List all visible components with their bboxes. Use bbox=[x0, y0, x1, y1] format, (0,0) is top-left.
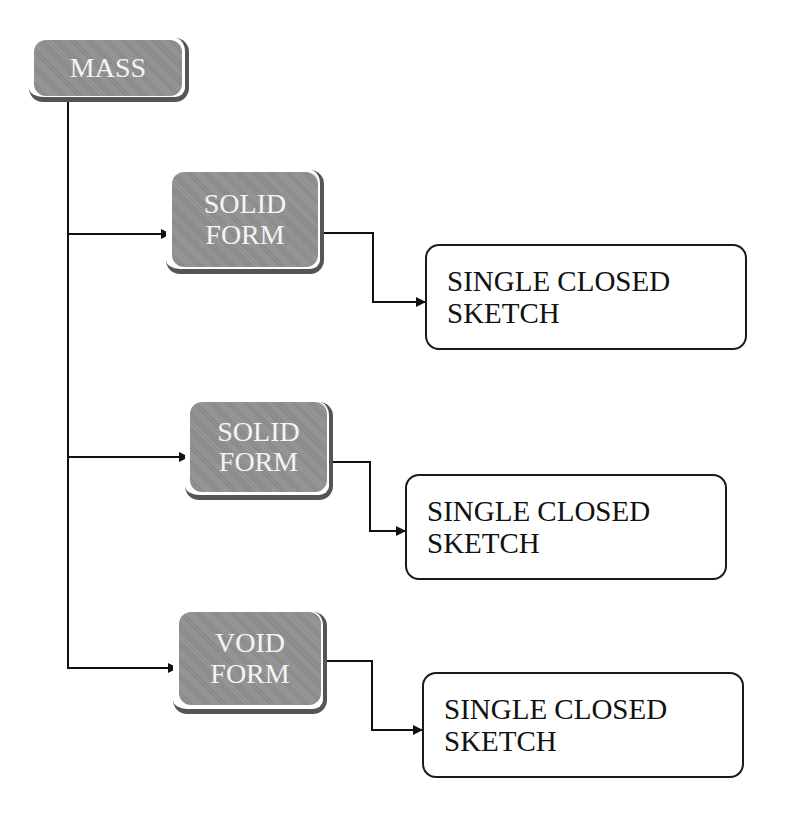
arrow-to-sketch-2 bbox=[331, 462, 405, 531]
sketch-box-1: SINGLE CLOSED SKETCH bbox=[425, 244, 747, 350]
solid-form-box-1: SOLID FORM bbox=[172, 172, 318, 267]
sketch-1-line1: SINGLE CLOSED bbox=[447, 265, 745, 297]
sketch-box-2: SINGLE CLOSED SKETCH bbox=[405, 474, 727, 580]
sketch-box-3: SINGLE CLOSED SKETCH bbox=[422, 672, 744, 778]
form-1-line1: SOLID bbox=[204, 189, 286, 219]
form-3-line1: VOID bbox=[215, 628, 285, 658]
sketch-3-line1: SINGLE CLOSED bbox=[444, 693, 742, 725]
sketch-2-line2: SKETCH bbox=[427, 527, 725, 559]
sketch-3-line2: SKETCH bbox=[444, 725, 742, 757]
form-2-line2: FORM bbox=[219, 447, 298, 477]
sketch-2-line1: SINGLE CLOSED bbox=[427, 495, 725, 527]
form-2-line1: SOLID bbox=[217, 417, 299, 447]
mass-box: MASS bbox=[34, 40, 182, 96]
sketch-1-line2: SKETCH bbox=[447, 297, 745, 329]
void-form-box: VOID FORM bbox=[179, 612, 321, 705]
mass-label: MASS bbox=[70, 53, 146, 83]
form-1-line2: FORM bbox=[205, 220, 284, 250]
form-3-line2: FORM bbox=[210, 659, 289, 689]
arrow-to-sketch-3 bbox=[325, 661, 422, 730]
solid-form-box-2: SOLID FORM bbox=[190, 402, 327, 492]
arrow-to-sketch-1 bbox=[322, 233, 425, 302]
